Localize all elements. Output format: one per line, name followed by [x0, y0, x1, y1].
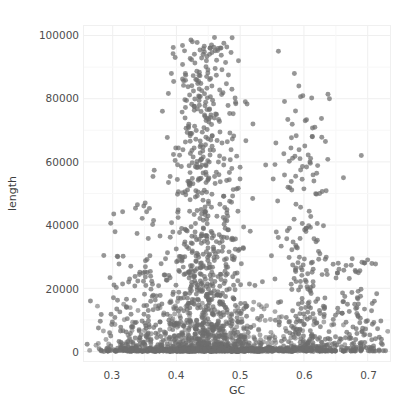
scatter-plot-figure: 020000400006000080000100000 0.30.40.50.6…: [0, 0, 403, 416]
x-axis-title: GC: [83, 384, 391, 397]
x-tick-label: 0.5: [210, 369, 270, 381]
y-tick-label: 100000: [3, 29, 79, 40]
y-tick-label: 80000: [3, 93, 79, 104]
x-tick-label: 0.7: [339, 369, 399, 381]
x-axis-tick-labels: 0.30.40.50.60.7: [0, 369, 403, 383]
y-tick-label: 0: [3, 347, 79, 358]
x-tick-label: 0.4: [146, 369, 206, 381]
x-tick-label: 0.3: [82, 369, 142, 381]
data-points: [84, 26, 390, 361]
y-tick-label: 20000: [3, 283, 79, 294]
y-axis-title: length: [6, 164, 19, 224]
x-tick-label: 0.6: [274, 369, 334, 381]
plot-panel: [83, 25, 391, 362]
